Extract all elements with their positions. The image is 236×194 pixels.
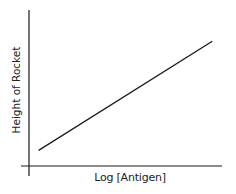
line-chart	[0, 0, 236, 194]
x-axis-label: Log [Antigen]	[60, 171, 200, 184]
data-line	[39, 41, 213, 150]
y-axis-label: Height of Rocket	[10, 30, 22, 150]
